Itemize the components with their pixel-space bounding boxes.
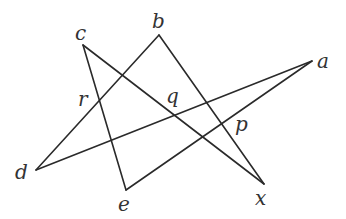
segments: [36, 35, 312, 190]
label-a: a: [317, 49, 329, 73]
segment-d-a: [36, 61, 312, 170]
line-diagram: a b c d e x r q p: [0, 0, 346, 219]
label-r: r: [78, 87, 89, 111]
label-q: q: [166, 84, 179, 108]
segment-b-x: [159, 35, 264, 184]
label-e: e: [118, 192, 130, 216]
segment-c-e: [83, 45, 126, 190]
label-d: d: [15, 160, 28, 184]
label-b: b: [152, 9, 165, 33]
label-p: p: [235, 112, 248, 136]
label-c: c: [75, 21, 86, 45]
label-x: x: [255, 186, 266, 210]
segment-e-a: [126, 61, 312, 190]
